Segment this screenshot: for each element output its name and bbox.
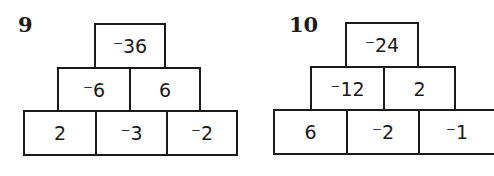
pyramid-bottom-cell: ⁻2 <box>346 109 420 155</box>
pyramid-middle-cell: ⁻12 <box>310 66 385 111</box>
pyramid-bottom-cell: 6 <box>273 109 348 155</box>
problem-number: 10 <box>289 14 318 35</box>
pyramid-bottom-cell: ⁻2 <box>166 110 238 156</box>
pyramid-bottom-cell: ⁻1 <box>418 109 494 155</box>
pyramid-middle-cell: 6 <box>129 67 201 112</box>
pyramid-top-cell: ⁻36 <box>94 23 166 69</box>
pyramid-middle-cell: ⁻6 <box>57 67 131 112</box>
pyramid-top-cell: ⁻24 <box>345 22 419 68</box>
pyramid-middle-cell: 2 <box>383 66 456 111</box>
pyramid-bottom-cell: ⁻3 <box>95 110 168 156</box>
problem-number: 9 <box>18 14 33 35</box>
pyramid-bottom-cell: 2 <box>23 110 97 156</box>
